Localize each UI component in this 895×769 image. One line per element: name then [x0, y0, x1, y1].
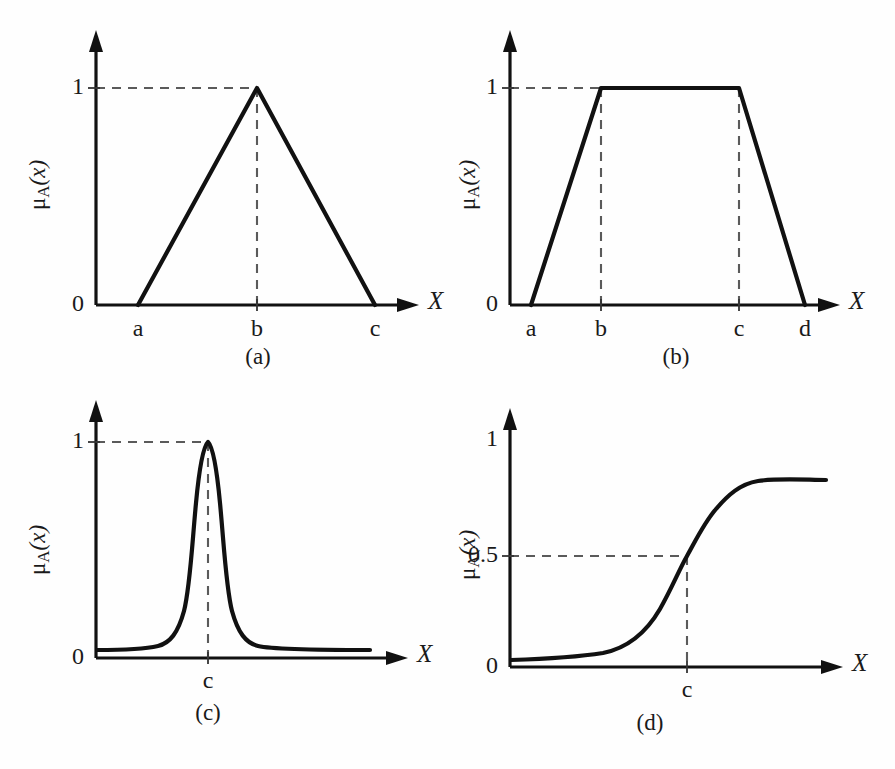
- y-axis-label: μA(x): [25, 525, 53, 575]
- x-tick-label-c: c: [682, 676, 693, 702]
- panel-caption-d: (d): [637, 710, 664, 735]
- x-axis-label: X: [848, 287, 866, 314]
- y-tick-label-zero: 0: [72, 290, 84, 316]
- x-axis-label: X: [851, 649, 869, 676]
- gaussian-plot: 1 0 c X μA(x) (c): [0, 385, 448, 769]
- x-tick-label-a: a: [133, 315, 144, 341]
- gaussian-curve: [97, 442, 370, 650]
- panel-c-gaussian: 1 0 c X μA(x) (c): [0, 385, 448, 769]
- x-axis-arrow-icon: [821, 660, 843, 674]
- trapezoidal-curve: [531, 88, 805, 305]
- sigmoidal-plot: 1 0.5 0 c X μA(x) (d): [448, 385, 895, 769]
- panel-caption-c: (c): [195, 700, 221, 725]
- y-axis-arrow-icon: [89, 400, 103, 422]
- x-axis-label: X: [416, 640, 434, 667]
- y-tick-label-one: 1: [72, 427, 84, 453]
- y-tick-label-one: 1: [486, 73, 498, 99]
- y-tick-label-zero: 0: [486, 652, 498, 678]
- y-tick-label-zero: 0: [486, 290, 498, 316]
- y-axis-label: μA(x): [455, 530, 483, 580]
- x-axis-label: X: [427, 287, 445, 314]
- x-axis-arrow-icon: [397, 298, 419, 312]
- x-tick-label-c: c: [370, 315, 381, 341]
- x-tick-label-b: b: [251, 315, 263, 341]
- x-tick-label-a: a: [526, 315, 537, 341]
- trapezoidal-plot: 1 0 a b c d X μA(x) (b): [448, 0, 895, 385]
- x-tick-label-c: c: [203, 667, 214, 693]
- y-tick-label-zero: 0: [72, 643, 84, 669]
- y-tick-label-one: 1: [486, 425, 498, 451]
- panel-caption-a: (a): [245, 344, 271, 369]
- y-axis-arrow-icon: [89, 30, 103, 52]
- sigmoid-curve: [511, 479, 826, 660]
- panel-caption-b: (b): [663, 344, 690, 369]
- y-tick-label-one: 1: [72, 73, 84, 99]
- x-axis-arrow-icon: [386, 651, 408, 665]
- y-axis-label: μA(x): [25, 160, 53, 210]
- x-tick-label-c: c: [734, 315, 745, 341]
- panel-d-sigmoidal: 1 0.5 0 c X μA(x) (d): [448, 385, 895, 769]
- y-axis-label: μA(x): [455, 160, 483, 210]
- y-axis-arrow-icon: [503, 30, 517, 52]
- figure-sheet: 1 0 a b c X μA(x) (a): [0, 0, 895, 769]
- triangular-plot: 1 0 a b c X μA(x) (a): [0, 0, 448, 385]
- panel-a-triangular: 1 0 a b c X μA(x) (a): [0, 0, 448, 385]
- x-tick-label-b: b: [595, 315, 607, 341]
- x-tick-label-d: d: [799, 315, 811, 341]
- y-axis-arrow-icon: [503, 408, 517, 430]
- x-axis-arrow-icon: [818, 298, 840, 312]
- panel-b-trapezoidal: 1 0 a b c d X μA(x) (b): [448, 0, 895, 385]
